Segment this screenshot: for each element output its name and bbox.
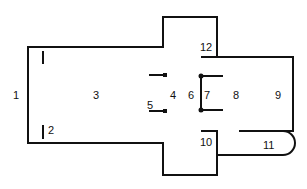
label-8: 8	[233, 89, 239, 101]
label-5: 5	[147, 99, 153, 111]
label-2: 2	[48, 124, 54, 136]
label-12: 12	[200, 41, 212, 53]
label-6: 6	[188, 89, 194, 101]
label-1: 1	[13, 89, 19, 101]
outer-walls	[28, 17, 295, 175]
interior-marks	[43, 52, 222, 138]
label-4: 4	[170, 89, 176, 101]
label-9: 9	[275, 89, 281, 101]
floor-plan-diagram: 1 2 3 4 5 6 7 8 9 10 11 12	[0, 0, 307, 189]
label-7: 7	[204, 89, 210, 101]
label-11: 11	[263, 139, 274, 151]
label-10: 10	[200, 136, 212, 148]
label-3: 3	[93, 89, 99, 101]
